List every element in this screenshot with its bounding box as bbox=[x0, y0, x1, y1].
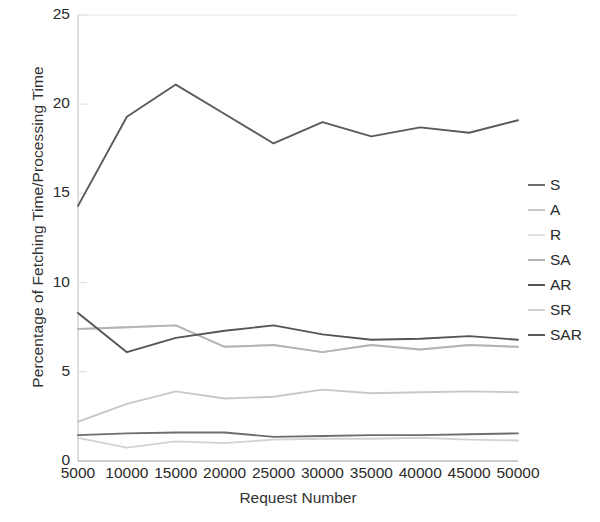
x-tick-label: 45000 bbox=[443, 464, 495, 482]
legend-item-sa[interactable]: SA bbox=[528, 247, 582, 272]
x-tick-label: 50000 bbox=[492, 464, 544, 482]
legend-item-ar[interactable]: AR bbox=[528, 272, 582, 297]
x-tick-label: 30000 bbox=[296, 464, 348, 482]
legend-label: SA bbox=[550, 252, 571, 268]
legend-label: SAR bbox=[550, 327, 582, 343]
x-tick-label: 20000 bbox=[199, 464, 251, 482]
legend-swatch-sr bbox=[528, 309, 545, 311]
x-tick-label: 5000 bbox=[52, 464, 104, 482]
legend-swatch-r bbox=[528, 234, 545, 236]
legend-label: R bbox=[550, 227, 561, 243]
series-line-a bbox=[78, 390, 518, 422]
y-tick-label: 10 bbox=[30, 273, 70, 291]
legend-item-r[interactable]: R bbox=[528, 222, 582, 247]
legend-label: S bbox=[550, 177, 560, 193]
legend-swatch-ar bbox=[528, 284, 545, 286]
legend-swatch-sa bbox=[528, 259, 545, 261]
line-chart-figure: Percentage of Fetching Time/Processing T… bbox=[0, 0, 600, 522]
chart-legend: SARSAARSRSAR bbox=[528, 172, 582, 347]
legend-item-sr[interactable]: SR bbox=[528, 297, 582, 322]
x-tick-label: 10000 bbox=[101, 464, 153, 482]
x-tick-label: 35000 bbox=[345, 464, 397, 482]
y-tick-label: 20 bbox=[30, 94, 70, 112]
y-tick-label: 15 bbox=[30, 183, 70, 201]
plot-area bbox=[0, 0, 600, 522]
legend-swatch-a bbox=[528, 209, 545, 211]
x-tick-label: 15000 bbox=[150, 464, 202, 482]
series-line-s bbox=[78, 432, 518, 436]
legend-label: AR bbox=[550, 277, 572, 293]
x-tick-label: 25000 bbox=[248, 464, 300, 482]
y-tick-label: 5 bbox=[30, 362, 70, 380]
legend-item-sar[interactable]: SAR bbox=[528, 322, 582, 347]
legend-swatch-s bbox=[528, 184, 545, 186]
legend-label: SR bbox=[550, 302, 572, 318]
legend-item-a[interactable]: A bbox=[528, 197, 582, 222]
legend-label: A bbox=[550, 202, 560, 218]
x-tick-label: 40000 bbox=[394, 464, 446, 482]
legend-item-s[interactable]: S bbox=[528, 172, 582, 197]
legend-swatch-sar bbox=[528, 334, 545, 336]
x-axis-title: Request Number bbox=[78, 489, 518, 507]
series-line-sr bbox=[78, 438, 518, 448]
y-tick-label: 25 bbox=[30, 5, 70, 23]
series-line-sar bbox=[78, 85, 518, 206]
